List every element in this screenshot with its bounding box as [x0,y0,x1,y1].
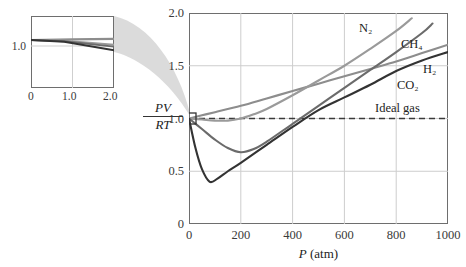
main-xtick-5: 1000 [436,228,461,243]
ideal-gas-label: Ideal gas [375,101,420,116]
xaxis-label: P (atm) [189,246,448,262]
inset-plot-svg [31,16,114,88]
main-xtick-2: 400 [283,228,302,243]
main-ytick-0: 0 [178,217,184,232]
main-ytick-1: 0.5 [168,164,184,179]
curve-co2 [189,52,448,182]
series-label-ch4: CH₄ [401,37,423,52]
main-ytick-3: 1.5 [168,58,184,73]
main-xtick-3: 600 [335,228,354,243]
main-xtick-0: 0 [186,228,192,243]
series-label-n2: N₂ [359,21,372,36]
main-ytick-4: 2.0 [168,6,184,21]
xaxis-label-symbol: P [299,246,307,261]
inset-ytick-1: 1.0 [12,40,26,52]
yaxis-label-denominator: RT [143,116,183,132]
yaxis-label: PV RT [143,101,183,131]
figure-root: 1.0 0 1.0 2.0 [0,0,466,267]
inset-xtick-1: 1.0 [62,90,76,102]
yaxis-label-numerator: PV [143,101,183,116]
inset-gridlines [31,16,114,88]
inset-chart: 1.0 0 1.0 2.0 [31,16,114,88]
xaxis-label-unit: (atm) [310,246,338,261]
main-xtick-4: 800 [387,228,406,243]
inset-xtick-0: 0 [28,90,34,102]
series-label-co2: CO₂ [397,78,419,93]
main-xtick-1: 200 [231,228,250,243]
series-label-h2: H₂ [423,62,436,77]
main-chart: 0 0.5 1.0 1.5 2.0 0 200 400 600 800 1000… [189,13,448,224]
